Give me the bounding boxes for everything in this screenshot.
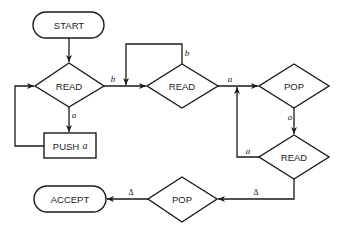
edge-label-read3-pop2: Δ: [253, 188, 258, 197]
read-node-1: READ: [35, 63, 104, 107]
pop-node-2: POP: [148, 177, 217, 222]
push-node: PUSH a: [44, 133, 96, 158]
accept-node: ACCEPT: [34, 186, 106, 212]
edge-label-pop2-accept: Δ: [128, 188, 133, 197]
read2-label: READ: [169, 81, 196, 92]
edge-push-read1-loop: [15, 86, 44, 146]
accept-label: ACCEPT: [51, 194, 90, 205]
read3-label: READ: [281, 152, 308, 163]
push-label: PUSH: [53, 141, 80, 152]
edge-label-read1-read2: b: [111, 74, 116, 84]
edge-label-read3-loop: a: [246, 146, 251, 156]
pop-node-1: POP: [259, 64, 329, 108]
read1-label: READ: [56, 81, 83, 92]
start-node: START: [33, 12, 104, 38]
flowchart-canvas: START READ PUSH a READ POP READ POP ACCE…: [0, 0, 343, 233]
read-node-2: READ: [147, 64, 218, 108]
push-arg: a: [83, 140, 88, 151]
edge-label-read2-pop1: a: [228, 74, 233, 84]
edge-label-read1-push: a: [72, 110, 77, 120]
pop2-label: POP: [172, 194, 192, 205]
edge-label-pop1-read3: a: [288, 112, 293, 122]
pop1-label: POP: [284, 81, 304, 92]
edge-label-read2-self: b: [185, 48, 190, 58]
start-label: START: [54, 20, 84, 31]
read-node-3: READ: [259, 135, 329, 179]
connectors: [15, 38, 294, 199]
